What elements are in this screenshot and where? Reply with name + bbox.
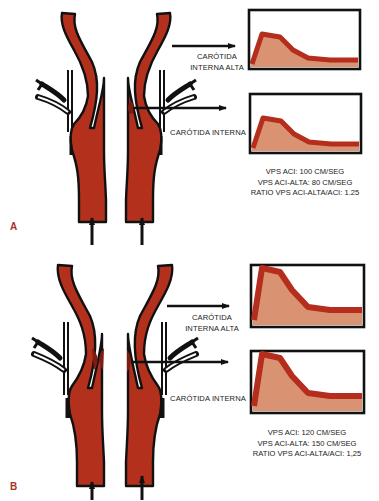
label-high-ica: CARÓTIDA INTERNA ALTA	[180, 52, 254, 73]
label-high-ica-line1: CARÓTIDA	[180, 52, 254, 63]
left-carotid-vessel	[36, 13, 106, 222]
panel-a-artwork	[0, 0, 379, 250]
label-ica-b: CARÓTIDA INTERNA	[166, 394, 250, 405]
stat-vps-aci-b: VPS ACI: 120 CM/SEG	[245, 428, 369, 439]
right-carotid-vessel-b	[126, 265, 198, 486]
stats-a: VPS ACI: 100 CM/SEG VPS ACI-ALTA: 80 CM/…	[248, 167, 362, 199]
waveform-high-ica-b	[251, 265, 364, 327]
panel-b: CARÓTIDA INTERNA ALTA CARÓTIDA INTERNA V…	[0, 250, 379, 501]
panel-b-artwork	[0, 250, 379, 501]
stats-b: VPS ACI: 120 CM/SEG VPS ACI-ALTA: 150 CM…	[245, 428, 369, 460]
label-high-ica-line2: INTERNA ALTA	[180, 63, 254, 74]
waveform-high-ica	[249, 10, 360, 69]
stat-ratio-b: RATIO VPS ACI-ALTA/ACI: 1,25	[245, 449, 369, 460]
label-high-ica-b-line1: CARÓTIDA	[175, 313, 249, 324]
label-high-ica-b-line2: INTERNA ALTA	[175, 324, 249, 335]
waveform-ica	[250, 94, 361, 153]
panel-letter-a: A	[10, 221, 17, 232]
label-high-ica-b: CARÓTIDA INTERNA ALTA	[175, 313, 249, 334]
waveform-ica-b	[251, 351, 364, 413]
stat-ratio: RATIO VPS ACI-ALTA/ACI: 1.25	[248, 188, 362, 199]
right-carotid-vessel	[126, 13, 196, 222]
stat-vps-aci: VPS ACI: 100 CM/SEG	[248, 167, 362, 178]
stat-vps-aci-alta-b: VPS ACI-ALTA: 150 CM/SEG	[245, 439, 369, 450]
panel-a: CARÓTIDA INTERNA ALTA CARÓTIDA INTERNA V…	[0, 0, 379, 250]
label-ica: CARÓTIDA INTERNA	[166, 128, 250, 139]
stat-vps-aci-alta: VPS ACI-ALTA: 80 CM/SEG	[248, 178, 362, 189]
panel-letter-b: B	[10, 481, 17, 492]
left-carotid-vessel-b	[32, 265, 104, 486]
